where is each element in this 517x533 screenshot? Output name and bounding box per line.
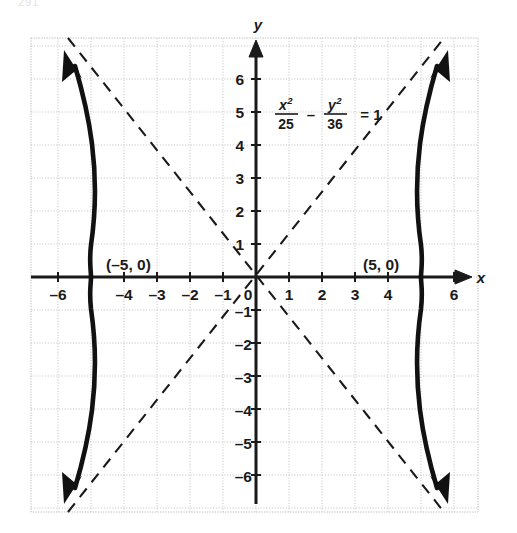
y-tick-label: –6 [235, 468, 253, 485]
y-axis-label: y [253, 16, 263, 33]
equation-denominator-left: 25 [278, 116, 294, 132]
equation-numerator-left-exponent: 2 [286, 95, 293, 106]
x-axis-label: x [476, 269, 486, 286]
y-tick-label: –5 [235, 435, 253, 452]
equation-denominator-right: 36 [327, 116, 343, 132]
y-tick-label: 1 [235, 236, 244, 253]
x-tick-label: –6 [49, 286, 67, 303]
x-tick-label-origin: 0 [244, 286, 253, 303]
page-number-header: 291 [18, 0, 39, 8]
x-tick-label: –2 [181, 286, 198, 303]
equation-numerator-right-exponent: 2 [335, 95, 342, 106]
y-tick-label: –2 [235, 336, 252, 353]
y-tick-label: 4 [235, 137, 244, 154]
y-tick-label: 6 [235, 71, 244, 88]
vertex-label-right: (5, 0) [363, 256, 399, 273]
x-tick-label: 2 [318, 286, 327, 303]
x-tick-label: 3 [351, 286, 360, 303]
x-tick-label: 6 [450, 286, 459, 303]
equation-equals-one: = 1 [360, 106, 381, 123]
coordinate-plane-svg: –6 –4 –3 –2 –1 0 1 2 3 4 6 6 5 4 3 2 1 –… [0, 0, 517, 533]
y-tick-label: –3 [235, 369, 253, 386]
x-tick-label: 4 [384, 286, 393, 303]
x-tick-label: –1 [214, 286, 232, 303]
x-tick-label: 1 [285, 286, 294, 303]
y-tick-label: 2 [235, 203, 244, 220]
y-tick-label: 5 [235, 104, 244, 121]
hyperbola-graph-figure: 291 [0, 0, 517, 533]
y-tick-label: 3 [235, 170, 244, 187]
y-tick-label: –1 [235, 303, 253, 320]
x-tick-label: –3 [148, 286, 166, 303]
y-tick-label: –4 [235, 402, 253, 419]
equation-operator: – [307, 106, 315, 123]
vertex-label-left: (–5, 0) [106, 256, 151, 273]
x-tick-label: –4 [115, 286, 133, 303]
